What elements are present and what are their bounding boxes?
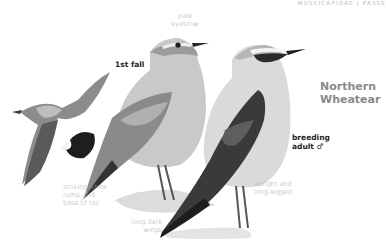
eyebrow-annotation: pale eyebrow: [168, 12, 202, 28]
annotation-line: long-legged: [254, 188, 292, 196]
annotation-line: striking white: [63, 183, 107, 191]
annotation-line: eyebrow: [168, 20, 202, 28]
species-name: Northern Wheatear: [320, 80, 380, 106]
annotation-line: base of tail: [63, 199, 107, 207]
rump-annotation: striking white rump and base of tail: [63, 183, 107, 207]
annotation-line: wings: [122, 226, 162, 234]
label-line: adult ♂: [292, 142, 330, 151]
annotation-line: rump and: [63, 191, 107, 199]
first-fall-label: 1st fall: [115, 60, 144, 69]
legs-annotation: upright and long-legged: [254, 180, 292, 196]
species-name-line: Northern: [320, 80, 380, 93]
annotation-line: long dark: [122, 218, 162, 226]
annotation-line: upright and: [254, 180, 292, 188]
label-line: breeding: [292, 133, 330, 142]
breeding-adult-label: breeding adult ♂: [292, 133, 330, 151]
wings-annotation: long dark wings: [122, 218, 162, 234]
wheatear-illustration: [0, 0, 386, 249]
species-name-line: Wheatear: [320, 93, 380, 106]
annotation-line: pale: [168, 12, 202, 20]
first-fall-bird-illustration: [80, 38, 209, 202]
